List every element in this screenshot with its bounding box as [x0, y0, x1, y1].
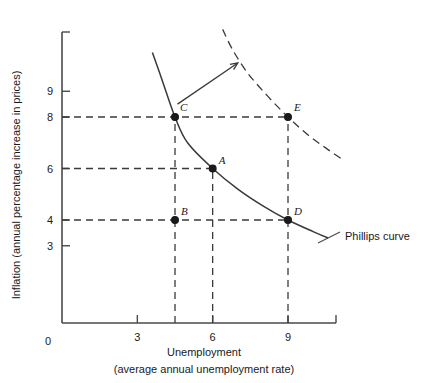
data-point-label-c: C: [180, 101, 188, 113]
curve-shifted: [223, 29, 341, 158]
data-point-e: [285, 114, 292, 121]
shift-arrow-shaft: [178, 63, 238, 104]
y-tick-label: 8: [47, 111, 53, 123]
data-point-label-b: B: [181, 205, 188, 217]
data-point-a: [209, 165, 216, 172]
y-tick-label: 3: [47, 240, 53, 252]
data-point-label-d: D: [293, 205, 302, 217]
y-tick-label: 9: [47, 85, 53, 97]
phillips-curve-figure: 34689 369 ABCDE Phillips curve 0 Unemplo…: [0, 0, 423, 383]
phillips-curve-leader-line: [318, 232, 340, 243]
x-tick-label: 6: [210, 331, 216, 343]
x-tick-label: 9: [285, 331, 291, 343]
data-point-c: [172, 114, 179, 121]
phillips-curve-label: Phillips curve: [345, 230, 410, 242]
origin-label: 0: [45, 335, 51, 347]
x-tick-label: 3: [134, 331, 140, 343]
shift-arrow-group: [178, 63, 238, 104]
data-point-b: [172, 217, 179, 224]
x-axis-subtitle: (average annual unemployment rate): [114, 363, 294, 375]
axes: [62, 32, 336, 323]
data-points: ABCDE: [172, 101, 302, 223]
data-point-d: [285, 217, 292, 224]
data-point-label-e: E: [293, 101, 301, 113]
phillips-curve-chart: 34689 369 ABCDE Phillips curve 0 Unemplo…: [0, 0, 423, 383]
y-tick-label: 4: [47, 214, 53, 226]
y-axis-title: Inflation (annual percentage increase in…: [10, 71, 22, 300]
y-tick-label: 6: [47, 163, 53, 175]
data-point-label-a: A: [218, 154, 226, 166]
x-axis-title: Unemployment: [167, 346, 241, 358]
